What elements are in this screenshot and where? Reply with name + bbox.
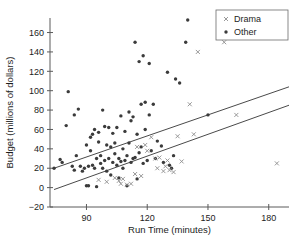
data-point-drama <box>145 149 149 153</box>
data-point-other <box>121 147 124 150</box>
data-point-other <box>73 168 76 171</box>
legend-label-other[interactable]: Other <box>234 27 257 37</box>
y-tick-label: 160 <box>29 28 44 38</box>
data-point-other <box>152 103 155 106</box>
y-tick-label: 0 <box>39 183 44 193</box>
data-point-other <box>93 167 96 170</box>
data-point-drama <box>133 172 137 176</box>
x-tick-label: 90 <box>81 213 91 223</box>
data-point-other <box>172 154 175 157</box>
data-point-other <box>160 144 163 147</box>
lower-fit <box>54 105 289 189</box>
scatter-chart: −2002040608010012014016090120150180 Run … <box>0 0 295 239</box>
data-point-drama <box>155 166 159 170</box>
data-point-other <box>99 162 102 165</box>
data-point-other <box>87 165 90 168</box>
data-point-other <box>186 18 189 21</box>
data-point-other <box>178 81 181 84</box>
data-point-drama <box>188 102 192 106</box>
data-point-other <box>117 157 120 160</box>
y-tick-label: 100 <box>29 86 44 96</box>
data-point-other <box>143 128 146 131</box>
data-point-other <box>111 132 114 135</box>
data-point-other <box>85 143 88 146</box>
data-point-drama <box>113 176 117 180</box>
y-tick-label: 120 <box>29 67 44 77</box>
data-point-drama <box>163 164 167 168</box>
data-point-other <box>113 152 116 155</box>
data-point-other <box>121 167 124 170</box>
data-point-drama <box>157 156 161 160</box>
axes: −2002040608010012014016090120150180 <box>29 18 289 223</box>
data-point-other <box>109 173 112 176</box>
data-point-drama <box>139 174 143 178</box>
data-point-other <box>58 158 61 161</box>
y-tick-label: 140 <box>29 47 44 57</box>
data-point-other <box>139 103 142 106</box>
chart-legend[interactable]: DramaOther <box>216 10 288 40</box>
data-point-other <box>174 77 177 80</box>
data-point-other <box>127 110 130 113</box>
data-point-other <box>133 156 136 159</box>
data-point-other <box>103 159 106 162</box>
data-point-other <box>113 141 116 144</box>
data-point-other <box>111 161 114 164</box>
data-point-other <box>81 169 84 172</box>
data-point-other <box>97 140 100 143</box>
data-point-other <box>137 60 140 63</box>
data-point-other <box>135 177 138 180</box>
data-point-other <box>101 167 104 170</box>
data-point-drama <box>121 177 125 181</box>
data-point-other <box>162 161 165 164</box>
data-point-drama <box>275 161 279 165</box>
data-point-other <box>166 71 169 74</box>
data-point-other <box>125 154 128 157</box>
data-point-other <box>148 62 151 65</box>
data-point-other <box>206 113 209 116</box>
data-point-other <box>146 159 149 162</box>
data-point-other <box>52 167 55 170</box>
data-point-drama <box>192 132 196 136</box>
data-point-drama <box>234 113 238 117</box>
data-point-other <box>143 101 146 104</box>
y-tick-label: −20 <box>29 202 44 212</box>
data-point-other <box>75 154 78 157</box>
data-point-drama <box>165 158 169 162</box>
y-tick-label: 40 <box>34 144 44 154</box>
x-tick-label: 120 <box>140 213 155 223</box>
data-point-other <box>107 157 110 160</box>
data-point-other <box>129 161 132 164</box>
data-point-drama <box>176 134 180 138</box>
data-point-drama <box>196 50 200 54</box>
data-point-drama <box>105 180 109 184</box>
x-axis-title: Run Time (minutes) <box>128 224 211 235</box>
data-point-other <box>150 149 153 152</box>
data-point-other <box>115 164 118 167</box>
data-point-other <box>123 130 126 133</box>
x-tick-label: 150 <box>200 213 215 223</box>
data-point-other <box>95 157 98 160</box>
data-point-other <box>168 164 171 167</box>
y-tick-label: 60 <box>34 125 44 135</box>
y-tick-label: 20 <box>34 163 44 173</box>
data-point-drama <box>172 170 176 174</box>
y-tick-label: 80 <box>34 105 44 115</box>
data-point-other <box>71 165 74 168</box>
data-point-other <box>129 119 132 122</box>
data-point-drama <box>180 159 184 163</box>
data-point-other <box>156 139 159 142</box>
legend-label-drama[interactable]: Drama <box>234 14 261 24</box>
data-point-other <box>97 131 100 134</box>
data-point-other <box>79 165 82 168</box>
data-point-other <box>93 128 96 131</box>
data-point-other <box>87 184 90 187</box>
data-point-drama <box>168 168 172 172</box>
y-axis-title: Budget (millions of dollars) <box>4 57 15 169</box>
data-point-other <box>91 164 94 167</box>
data-point-other <box>83 167 86 170</box>
data-point-other <box>107 126 110 129</box>
data-point-other <box>141 162 144 165</box>
data-point-other <box>99 154 102 157</box>
data-point-other <box>119 114 122 117</box>
data-point-other <box>119 160 122 163</box>
